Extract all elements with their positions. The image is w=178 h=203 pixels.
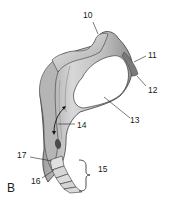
- panel-letter: B: [7, 182, 15, 194]
- label-17: 17: [17, 151, 26, 160]
- label-12: 12: [148, 86, 157, 95]
- sacrum-coccyx-illustration: [0, 0, 178, 203]
- label-11: 11: [148, 51, 157, 60]
- brace-15: [79, 160, 90, 191]
- label-15: 15: [98, 165, 107, 174]
- label-14: 14: [77, 121, 86, 130]
- label-13: 13: [130, 116, 139, 125]
- coccyx: [50, 156, 82, 193]
- label-10: 10: [83, 11, 92, 20]
- anatomical-figure: 10 11 12 13 14 15 16 17 B: [0, 0, 178, 203]
- label-16: 16: [31, 177, 40, 186]
